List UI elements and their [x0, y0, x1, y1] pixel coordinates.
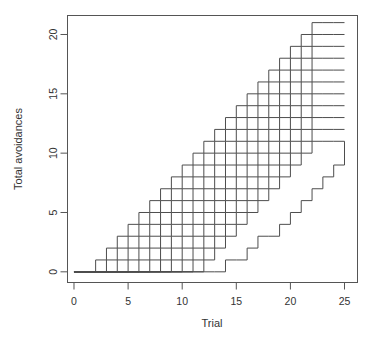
x-axis-title: Trial — [202, 317, 223, 329]
y-tick-label: 5 — [48, 209, 60, 215]
x-tick-label: 25 — [339, 295, 351, 307]
y-axis-title: Total avoidances — [12, 108, 24, 190]
y-tick-label: 15 — [48, 88, 60, 100]
y-tick-label: 0 — [48, 269, 60, 275]
x-tick-label: 20 — [285, 295, 297, 307]
chart-canvas: 0510152025 05101520 Trial Total avoidanc… — [0, 0, 371, 341]
y-tick-label: 20 — [48, 28, 60, 40]
x-tick-label: 0 — [71, 295, 77, 307]
x-tick-label: 15 — [230, 295, 242, 307]
figure-background — [0, 0, 371, 341]
x-tick-label: 5 — [125, 295, 131, 307]
step-plot-figure: 0510152025 05101520 Trial Total avoidanc… — [0, 0, 371, 341]
x-tick-label: 10 — [176, 295, 188, 307]
y-tick-label: 10 — [48, 147, 60, 159]
